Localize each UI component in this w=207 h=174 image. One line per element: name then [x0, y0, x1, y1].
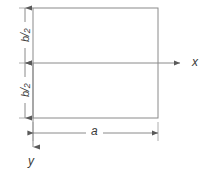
- b-denominator-lower: 2: [22, 83, 32, 88]
- fraction-slash-lower: /: [18, 88, 32, 91]
- y-axis-label: y: [28, 155, 34, 167]
- dimension-label-b-over-2-upper: b/2: [16, 28, 32, 42]
- dimension-label-b-over-2-lower: b/2: [16, 83, 32, 97]
- b-numerator-lower: b: [19, 91, 31, 97]
- fraction-slash-upper: /: [18, 33, 32, 36]
- b-numerator-upper: b: [19, 36, 31, 42]
- dimension-label-a: a: [91, 125, 98, 137]
- x-axis-label: x: [192, 56, 198, 68]
- dimension-diagram: x y b/2 b/2 a: [0, 0, 207, 174]
- b-denominator-upper: 2: [22, 28, 32, 33]
